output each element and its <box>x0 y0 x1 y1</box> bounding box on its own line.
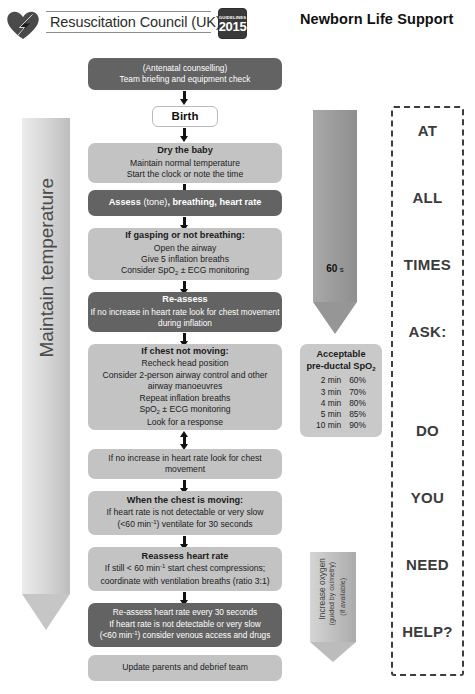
spo2-value: 70% <box>349 386 366 397</box>
gasping-line3: Consider SpO2 ± ECG monitoring <box>121 265 249 277</box>
sixty-unit: s <box>340 265 344 274</box>
increase-oxygen-label-3: (if available) <box>339 578 346 616</box>
increase-oxygen-line3: (if available) <box>339 578 346 616</box>
if-chest-not-moving-box: If chest not moving: Recheck head positi… <box>88 344 282 430</box>
antenatal-line1: (Antenatal counselling) <box>143 63 227 74</box>
spo2-reference-table: Acceptable pre-ductal SpO2 2 min60% 3 mi… <box>300 344 382 437</box>
table-row: 3 min70% <box>316 386 366 397</box>
badge-year-label: 2015 <box>219 20 247 33</box>
reassess-hr-line2: coordinate with ventilation breaths (rat… <box>100 576 269 587</box>
chest-moving-line2: (<60 min-1) ventilate for 30 seconds <box>117 519 252 531</box>
gasping-ecg-text: ± ECG monitoring <box>178 265 249 275</box>
page-title: Newborn Life Support <box>300 11 453 27</box>
table-row: 5 min85% <box>316 409 366 420</box>
reassess-hr-rate-sup: -1 <box>160 563 165 569</box>
debrief-line1: Update parents and debrief team <box>122 662 248 673</box>
reassess30-rate-pre: (<60 min <box>100 630 133 640</box>
assess-text: Assess (tone), breathing, heart rate <box>109 197 262 208</box>
maintain-temperature-arrow: Maintain temperature <box>22 118 70 630</box>
connector-arrow <box>180 91 189 105</box>
spo2-value: 85% <box>349 409 366 420</box>
chest-spo2-subscript: 2 <box>157 409 160 415</box>
ask-word-help: HELP? <box>393 623 462 640</box>
dry-baby-line2: Start the clock or note the time <box>127 169 244 180</box>
reassess-hr-line1: If still < 60 min-1 start chest compress… <box>105 563 265 575</box>
chest-not-moving-line2: Consider 2-person airway control and oth… <box>103 370 268 381</box>
chest-not-moving-line4: Repeat inflation breaths <box>140 393 231 404</box>
reassess-heart-rate-box: Reassess heart rate If still < 60 min-1 … <box>88 547 282 591</box>
chest-moving-line1: If heart rate is not detectable or very … <box>106 507 263 518</box>
increase-oxygen-line1: Increase oxygen <box>317 558 327 619</box>
no-increase-line1: If no increase in heart rate look for ch… <box>108 453 261 464</box>
spo2-title-text: pre-ductal SpO <box>306 361 372 371</box>
spo2-value: 60% <box>349 375 366 386</box>
dry-the-baby-box: Dry the baby Maintain normal temperature… <box>88 143 282 183</box>
spo2-title-line1: Acceptable <box>306 349 376 361</box>
reassess-hr-title: Reassess heart rate <box>142 551 229 562</box>
reassess1-line1: If no increase in heart rate look for ch… <box>90 307 279 318</box>
sixty-value: 60 <box>326 263 337 274</box>
reassess-hr-rate-post: start chest compressions; <box>165 563 265 573</box>
reassess1-line2: during inflation <box>158 318 212 329</box>
heart-lightning-icon <box>6 10 40 40</box>
connector-arrow-bidirectional <box>180 431 189 450</box>
chest-not-moving-line1: Recheck head position <box>142 358 229 369</box>
gasping-spo2-text: Consider SpO <box>121 265 175 275</box>
spo2-values-table: 2 min60% 3 min70% 4 min80% 5 min85% 10 m… <box>316 375 366 431</box>
gasping-title: If gasping or not breathing: <box>125 230 244 241</box>
chest-not-moving-line5: SpO2 ± ECG monitoring <box>139 404 230 416</box>
gasping-line1: Open the airway <box>154 243 217 254</box>
no-increase-heart-rate-box: If no increase in heart rate look for ch… <box>88 449 282 479</box>
assess-bold1: Assess <box>109 197 141 207</box>
antenatal-line2: Team briefing and equipment check <box>120 74 251 85</box>
reassess30-line2: If heart rate is not detectable or very … <box>109 619 261 630</box>
reassess30-rate-post: ) consider venous access and drugs <box>138 630 271 640</box>
ask-word-ask: ASK: <box>393 323 462 340</box>
ask-word-times: TIMES <box>393 256 462 273</box>
chest-moving-rate-post: ) ventilate for 30 seconds <box>157 519 253 529</box>
chest-spo2-text: SpO <box>139 404 156 414</box>
birth-label: Birth <box>172 111 199 122</box>
sixty-second-label: 60 s <box>313 258 357 276</box>
antenatal-counselling-box: (Antenatal counselling) Team briefing an… <box>88 58 282 90</box>
spo2-time: 3 min <box>316 386 349 397</box>
chest-not-moving-line3: airway manoeuvres <box>148 381 223 392</box>
reassess30-line3: (<60 min-1) consider venous access and d… <box>100 630 271 642</box>
birth-box: Birth <box>152 106 218 127</box>
table-row: 4 min80% <box>316 397 366 408</box>
gasping-line2: Give 5 inflation breaths <box>141 254 229 265</box>
increase-oxygen-line2: (guided by oximetry) <box>328 562 335 625</box>
nls-algorithm-poster: Resuscitation Council (UK) GUIDELINES 20… <box>0 0 475 694</box>
connector-arrow <box>180 128 189 142</box>
increase-oxygen-label: Increase oxygen <box>317 558 327 619</box>
chest-moving-title: When the chest is moving: <box>127 495 243 506</box>
ask-word-need: NEED <box>393 556 462 573</box>
reassess30-rate-sup: -1 <box>132 630 137 636</box>
ask-word-do: DO <box>393 422 462 439</box>
chest-not-moving-title: If chest not moving: <box>141 346 228 357</box>
spo2-value: 80% <box>349 397 366 408</box>
organisation-name: Resuscitation Council (UK) <box>46 11 211 33</box>
spo2-time: 4 min <box>316 397 349 408</box>
ask-word-you: YOU <box>393 489 462 506</box>
re-assess-box: Re-assess If no increase in heart rate l… <box>88 292 282 332</box>
dry-baby-line1: Maintain normal temperature <box>130 158 240 169</box>
reassess1-title: Re-assess <box>162 294 207 305</box>
spo2-value: 90% <box>349 420 366 431</box>
table-row: 2 min60% <box>316 375 366 386</box>
increase-oxygen-label-2: (guided by oximetry) <box>328 562 335 625</box>
table-row: 10 min90% <box>316 420 366 431</box>
ask-word-all: ALL <box>393 189 462 206</box>
spo2-time: 10 min <box>316 420 349 431</box>
if-gasping-box: If gasping or not breathing: Open the ai… <box>88 228 282 280</box>
ask-for-help-panel: AT ALL TIMES ASK: DO YOU NEED HELP? <box>391 106 464 676</box>
increase-oxygen-arrow: Increase oxygen (guided by oximetry) (if… <box>310 552 356 662</box>
chest-not-moving-line6: Look for a response <box>147 417 223 428</box>
ask-word-at: AT <box>393 122 462 139</box>
chest-ecg-text: ± ECG monitoring <box>160 404 231 414</box>
spo2-time: 2 min <box>316 375 349 386</box>
reassess30-line1: Re-assess heart rate every 30 seconds <box>113 607 257 618</box>
gasping-spo2-subscript: 2 <box>175 270 178 276</box>
assess-bold2: , breathing, heart rate <box>167 197 261 207</box>
assess-tone: (tone) <box>143 197 167 207</box>
